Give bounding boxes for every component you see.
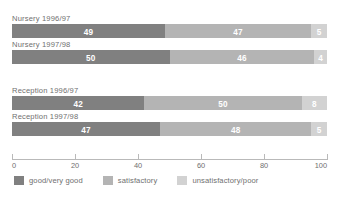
- stacked-bar: 42508: [12, 96, 327, 110]
- bar-segment: 46: [170, 50, 315, 64]
- bar-value-label: 50: [218, 99, 228, 108]
- bar-value-label: 50: [86, 53, 96, 62]
- legend-label: unsatisfactory/poor: [192, 176, 258, 185]
- bar-segment: 47: [165, 24, 312, 38]
- axis-tick: [75, 154, 76, 160]
- axis-tick: [201, 154, 202, 160]
- bar-value-label: 5: [317, 27, 322, 36]
- legend-swatch: [14, 176, 24, 185]
- bar-segment: 5: [311, 122, 327, 136]
- bar-group: Reception 1996/9742508: [12, 86, 327, 110]
- bar-segment: 8: [302, 96, 327, 110]
- axis-tick: [327, 154, 328, 160]
- legend-item: good/very good: [14, 176, 83, 185]
- bar-segment: 5: [311, 24, 327, 38]
- bar-value-label: 8: [312, 99, 317, 108]
- bar-segment: 47: [12, 122, 160, 136]
- stacked-bar-chart: Nursery 1996/9749475Nursery 1997/9850464…: [0, 0, 340, 203]
- bar-category-label: Nursery 1996/97: [12, 14, 327, 23]
- bar-value-label: 4: [318, 53, 323, 62]
- bar-value-label: 47: [81, 125, 91, 134]
- x-axis-line: [12, 159, 327, 160]
- bar-group: Nursery 1996/9749475: [12, 14, 327, 38]
- bar-segment: 50: [12, 50, 170, 64]
- axis-tick-label: 60: [197, 161, 205, 170]
- bar-segment: 49: [12, 24, 165, 38]
- bar-category-label: Reception 1997/98: [12, 112, 327, 121]
- stacked-bar: 49475: [12, 24, 327, 38]
- axis-tick: [264, 154, 265, 160]
- bar-group: Nursery 1997/9850464: [12, 40, 327, 64]
- bar-value-label: 49: [84, 27, 94, 36]
- axis-tick-label: 40: [134, 161, 142, 170]
- bar-value-label: 5: [317, 125, 322, 134]
- x-axis: 020406080100: [12, 152, 327, 172]
- legend-label: good/very good: [29, 176, 83, 185]
- bar-segment: 42: [12, 96, 144, 110]
- legend-item: unsatisfactory/poor: [177, 176, 258, 185]
- bar-category-label: Reception 1996/97: [12, 86, 327, 95]
- legend-label: satisfactory: [118, 176, 158, 185]
- stacked-bar: 47485: [12, 122, 327, 136]
- axis-tick-label: 0: [12, 161, 16, 170]
- axis-tick-label: 100: [315, 161, 327, 170]
- bar-segment: 4: [314, 50, 327, 64]
- axis-tick-label: 80: [260, 161, 268, 170]
- legend-item: satisfactory: [103, 176, 158, 185]
- stacked-bar: 50464: [12, 50, 327, 64]
- clipped-caption-text: [12, 0, 212, 5]
- bar-value-label: 48: [231, 125, 241, 134]
- bar-value-label: 42: [73, 99, 83, 108]
- legend-swatch: [177, 176, 187, 185]
- axis-tick: [138, 154, 139, 160]
- bar-value-label: 47: [233, 27, 243, 36]
- bar-category-label: Nursery 1997/98: [12, 40, 327, 49]
- bar-value-label: 46: [237, 53, 247, 62]
- axis-tick-label: 20: [71, 161, 79, 170]
- bar-group: Reception 1997/9847485: [12, 112, 327, 136]
- legend-swatch: [103, 176, 113, 185]
- bar-segment: 48: [160, 122, 311, 136]
- axis-tick: [12, 154, 13, 160]
- chart-legend: good/very goodsatisfactoryunsatisfactory…: [14, 176, 278, 185]
- bar-segment: 50: [144, 96, 302, 110]
